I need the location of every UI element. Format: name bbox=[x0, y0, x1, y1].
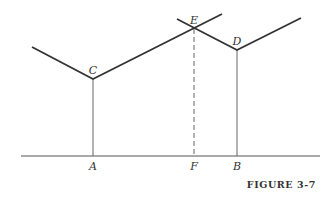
label-a: A bbox=[88, 160, 97, 173]
label-f: F bbox=[189, 160, 198, 173]
label-e: E bbox=[189, 14, 198, 27]
label-d: D bbox=[232, 35, 242, 48]
label-c: C bbox=[89, 64, 98, 77]
label-b: B bbox=[232, 160, 241, 173]
figure-caption: FIGURE 3-7 bbox=[247, 179, 316, 190]
figure-3-7-diagram: C E D A F B FIGURE 3-7 bbox=[0, 0, 328, 199]
